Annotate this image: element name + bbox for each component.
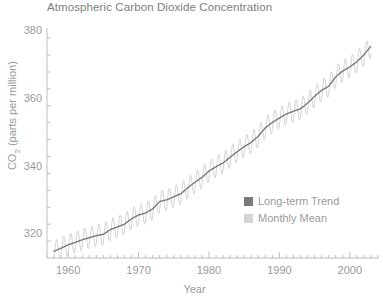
y-axis-title-suffix: (parts per million)	[6, 61, 18, 149]
y-tick-label: 380	[10, 24, 42, 36]
x-axis-title: Year	[0, 283, 389, 295]
x-tick-label: 2000	[328, 264, 372, 276]
x-tick-label: 1980	[187, 264, 231, 276]
y-axis-title: CO2 (parts per million)	[6, 46, 21, 186]
chart-legend: Long-term Trend Monthly Mean	[244, 194, 339, 228]
legend-label-long-term-trend: Long-term Trend	[258, 195, 339, 207]
x-tick-label: 1960	[46, 264, 90, 276]
x-tick-label: 1970	[117, 264, 161, 276]
y-tick-label: 320	[10, 227, 42, 239]
x-tick-label: 1990	[257, 264, 301, 276]
chart-container: Atmospheric Carbon Dioxide Concentration…	[0, 0, 389, 304]
chart-plot-svg	[0, 0, 389, 304]
legend-swatch-monthly-mean	[244, 214, 253, 223]
y-axis-title-prefix: CO	[6, 154, 18, 171]
legend-label-monthly-mean: Monthly Mean	[258, 212, 327, 224]
legend-item-long-term-trend: Long-term Trend	[244, 194, 339, 208]
legend-item-monthly-mean: Monthly Mean	[244, 211, 339, 225]
y-axis-title-subscript: 2	[13, 149, 22, 153]
legend-swatch-long-term-trend	[244, 197, 253, 206]
